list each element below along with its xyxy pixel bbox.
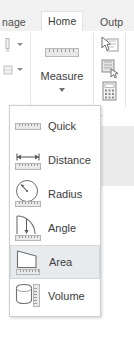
ribbon-right-edge: [126, 31, 134, 109]
menu-item-label: Quick: [48, 119, 76, 133]
clip-box-icon: [98, 57, 122, 80]
cursor-rectangle-icon: [98, 35, 122, 58]
tool-icon: [2, 63, 14, 77]
angle-arc-icon: [14, 214, 42, 242]
partial-tool-2[interactable]: [2, 61, 28, 81]
ribbon-tab-strip: nage Home Outp: [0, 0, 134, 32]
application-window: nage Home Outp: [0, 0, 134, 347]
background-panel-shade: [96, 126, 134, 186]
tab-output[interactable]: Outp: [100, 13, 123, 31]
menu-item-area[interactable]: Area: [10, 245, 100, 279]
partial-tool-1[interactable]: [2, 36, 28, 56]
measure-button-label: Measure: [31, 69, 93, 83]
chevron-down-icon[interactable]: [17, 43, 23, 46]
measure-dropdown-menu: Quick Distance: [9, 105, 101, 317]
tab-manage[interactable]: nage: [2, 13, 26, 31]
menu-item-distance[interactable]: Distance: [10, 143, 100, 177]
ribbon-left-tool-column: [0, 31, 30, 109]
tool-icon: [2, 38, 14, 52]
measure-button[interactable]: Measure: [31, 31, 93, 109]
ribbon-panel: Measure: [0, 31, 134, 109]
select-region-tool[interactable]: [98, 35, 122, 58]
volume-cylinder-icon: [14, 282, 42, 310]
tab-home[interactable]: Home: [41, 11, 83, 32]
menu-item-label: Angle: [48, 221, 76, 235]
menu-item-label: Radius: [48, 187, 82, 201]
menu-item-label: Distance: [48, 153, 91, 167]
menu-item-radius[interactable]: Radius: [10, 177, 100, 211]
ruler-quick-icon: [14, 112, 42, 140]
menu-item-volume[interactable]: Volume: [10, 279, 100, 313]
ribbon-right-tool-column: [94, 31, 125, 109]
calculator-icon: [98, 80, 122, 103]
distance-arrow-icon: [14, 146, 42, 174]
menu-item-label: Volume: [48, 289, 85, 303]
radius-circle-icon: [14, 180, 42, 208]
chevron-down-icon[interactable]: [17, 68, 23, 71]
menu-item-angle[interactable]: Angle: [10, 211, 100, 245]
ruler-icon: [31, 39, 93, 67]
menu-item-quick[interactable]: Quick: [10, 109, 100, 143]
area-polygon-icon: [15, 248, 43, 276]
chevron-down-icon[interactable]: [59, 88, 65, 92]
limit-box-tool[interactable]: [98, 57, 122, 80]
menu-item-label: Area: [49, 255, 72, 269]
calculator-tool[interactable]: [98, 80, 122, 103]
